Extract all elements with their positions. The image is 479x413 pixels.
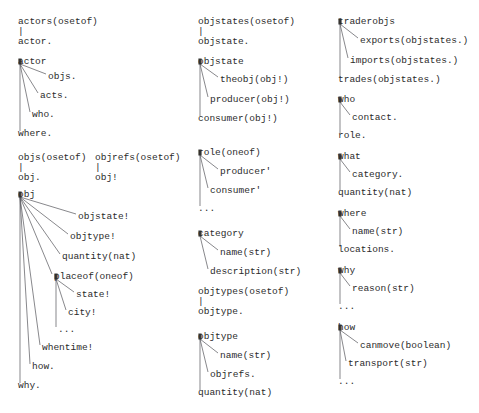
node-category: category [198,229,244,239]
node-objstate-ref: objstate. [198,37,249,47]
node-objtype: objtype [198,332,238,342]
node-traderobjs-exports: exports(objstates.) [360,36,468,46]
node-obj-objtype: objtype! [70,232,116,242]
edge-actor-acts [20,64,38,93]
edge-obj-whentime [20,197,40,345]
node-role-more: ... [198,204,215,214]
node-obj-why: why. [18,381,41,391]
node-how-more: ... [338,377,355,387]
node-traderobjs: traderobjs [338,17,395,27]
node-objstates: objstates(osetof) [198,17,295,27]
edge-trader-imports [340,24,348,58]
node-actor-acts: acts. [40,91,69,101]
node-objtype-objrefs: objrefs. [210,370,256,380]
node-objstate-theobj: theobj(obj!) [220,75,288,85]
node-objtype-name: name(str) [220,351,271,361]
node-actor-where: where. [18,129,52,139]
node-how: how [338,323,355,333]
node-traderobjs-trades: trades(objstates.) [338,75,441,85]
node-obj: obj [18,190,35,200]
edge-objstate-producer [200,64,208,97]
node-objrefs: objrefs(osetof) [95,153,181,163]
node-how-canmove: canmove(boolean) [360,341,451,351]
node-what-category: category. [352,170,403,180]
edge-obj-placeof [20,197,52,274]
node-who: who [338,95,355,105]
node-obj-ref: obj. [18,173,41,183]
node-role-consumer: consumer' [210,186,261,196]
node-why: why [338,266,355,276]
node-obj-placeof: placeof(oneof) [54,272,134,282]
node-where: where [338,209,367,219]
edge-obj-objtype [20,197,68,234]
edge-placeof-city [56,279,66,310]
node-where-name: name(str) [352,227,403,237]
edge-obj-how [20,197,30,364]
node-category-name: name(str) [220,248,271,258]
node-obj-quantity: quantity(nat) [62,252,136,262]
node-actor-ref: actor. [18,37,52,47]
node-objstate: objstate [198,57,244,67]
node-category-description: description(str) [210,267,301,277]
node-role-producer: producer' [220,167,271,177]
node-why-more: ... [338,302,355,312]
node-how-transport: transport(str) [348,359,428,369]
node-actor-who: who. [32,110,55,120]
node-obj-bang: obj! [95,173,118,183]
node-placeof-city: city! [68,308,97,318]
node-what: what [338,152,361,162]
edge-obj-quantity [20,197,60,254]
node-objtype-quantity: quantity(nat) [198,388,272,398]
node-actor-objs: objs. [48,72,77,82]
node-placeof-more: ... [58,325,75,335]
node-objstate-producer: producer(obj!) [210,95,290,105]
node-objs: objs(osetof) [18,153,86,163]
edge-objtype-objrefs [200,339,208,372]
edge-actor-who [20,64,30,112]
diagram-canvas: actors(osetof)|actor.actorobjs.acts.who.… [0,0,479,413]
node-placeof-state: state! [76,290,110,300]
edge-role-consumer [200,155,208,188]
edge-category-desc [200,236,208,269]
node-role: role(oneof) [198,148,261,158]
node-actor: actor [18,57,47,67]
node-what-quantity: quantity(nat) [338,188,412,198]
node-obj-how: how. [32,362,55,372]
node-obj-whentime: whentime! [42,343,93,353]
node-objtypes: objtypes(osetof) [198,287,289,297]
node-who-role: role. [338,131,367,141]
edge-how-transport [340,330,346,361]
node-why-reason: reason(str) [352,284,415,294]
node-who-contact: contact. [352,113,398,123]
node-traderobjs-imports: imports(objstates.) [350,56,458,66]
node-obj-objstate: objstate! [78,212,129,222]
node-objtype-ref: objtype. [198,307,244,317]
node-actors: actors(osetof) [18,17,98,27]
node-objstate-consumer: consumer(obj!) [198,114,278,124]
node-where-locations: locations. [338,245,395,255]
